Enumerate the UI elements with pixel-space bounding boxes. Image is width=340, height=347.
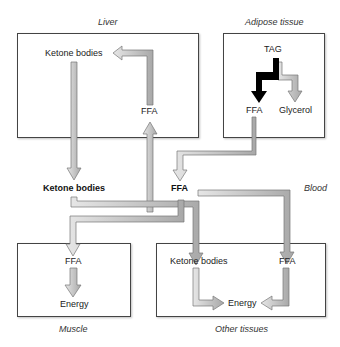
other-energy: Energy <box>228 298 257 308</box>
blood-ffa: FFA <box>171 183 188 193</box>
adipose-ffa-to-blood-arrow <box>173 117 256 181</box>
other-ffa-to-energy-arrow <box>261 268 289 310</box>
tag-to-ffa-arrow <box>251 58 279 103</box>
other-ffa: FFA <box>279 256 296 266</box>
other-tissues-label: Other tissues <box>215 324 268 334</box>
liver-ffa-to-ketone-arrow <box>113 46 153 105</box>
tag-to-glycerol-arrow <box>278 62 302 102</box>
liver-ffa: FFA <box>141 106 158 116</box>
blood-ffa-to-other-ffa-arrow <box>198 190 294 264</box>
muscle-ffa: FFA <box>65 256 82 266</box>
adipose-label: Adipose tissue <box>245 17 304 27</box>
blood-label: Blood <box>304 183 327 193</box>
adipose-ffa: FFA <box>246 105 263 115</box>
blood-ffa-to-muscle-arrow <box>66 200 184 256</box>
liver-ketone-to-blood-arrow <box>67 62 81 180</box>
adipose-tag: TAG <box>264 44 282 54</box>
blood-ffa-to-liver-arrow <box>143 122 157 212</box>
blood-ketone-bodies: Ketone bodies <box>43 183 105 193</box>
muscle-ffa-to-energy-arrow <box>65 268 81 297</box>
muscle-energy: Energy <box>60 299 89 309</box>
liver-ketone-bodies: Ketone bodies <box>45 48 103 58</box>
other-ketone-to-energy-arrow <box>193 268 224 310</box>
liver-label: Liver <box>98 17 118 27</box>
adipose-glycerol: Glycerol <box>279 105 312 115</box>
other-ketone-bodies: Ketone bodies <box>170 256 228 266</box>
muscle-label: Muscle <box>59 324 88 334</box>
